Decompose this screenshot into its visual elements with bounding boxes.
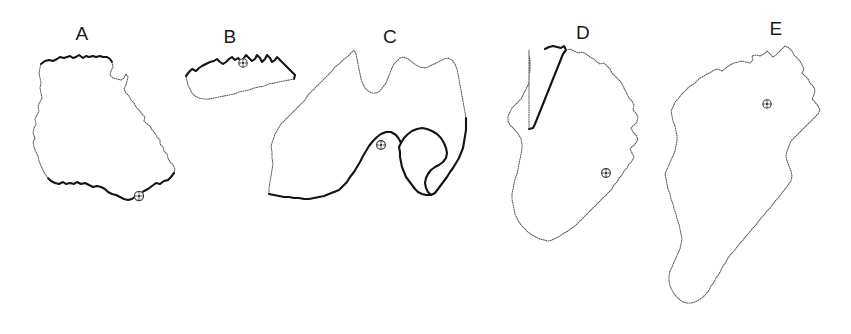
shape-d-fill: [507, 46, 626, 241]
capital-marker-e[interactable]: [762, 99, 771, 108]
shape-c-fill: [268, 52, 471, 200]
shape-e-fill: [665, 45, 817, 302]
capital-marker-c[interactable]: [376, 140, 386, 150]
capital-marker-d[interactable]: [601, 168, 611, 178]
shape-label-e: E: [769, 18, 782, 39]
shape-c-group[interactable]: C: [268, 26, 471, 200]
shape-label-a: A: [75, 23, 88, 44]
capital-marker-b[interactable]: [238, 58, 247, 67]
shape-a-group[interactable]: A: [32, 23, 176, 201]
shape-label-c: C: [383, 26, 397, 47]
shape-e-group[interactable]: E: [665, 18, 820, 303]
shape-b-group[interactable]: B: [185, 26, 295, 99]
shape-d-group[interactable]: D: [507, 22, 638, 241]
shape-a-fill: [32, 52, 176, 200]
capital-marker-a[interactable]: [134, 191, 144, 201]
shape-label-b: B: [223, 26, 236, 47]
shape-label-d: D: [576, 22, 590, 43]
map-canvas: A B: [0, 0, 851, 334]
prefecture-outline-figure: A B: [0, 0, 851, 334]
